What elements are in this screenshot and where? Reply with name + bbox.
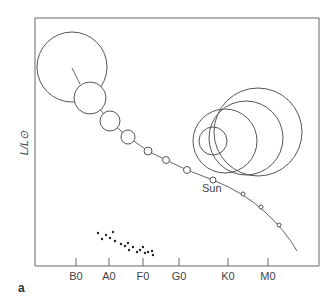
white-dwarf-dot [144,252,146,254]
main-sequence-star [121,130,135,144]
main-sequence-star [241,192,245,196]
white-dwarf-dot [97,232,99,234]
x-tick-label: M0 [260,270,275,282]
main-sequence-star [74,82,106,114]
white-dwarf-dot [151,250,153,252]
main-sequence-star [277,223,281,227]
white-dwarf-dot [147,251,149,253]
white-dwarf-dot [132,246,134,248]
main-sequence-star [163,157,170,164]
white-dwarf-dot [128,249,130,251]
giant-star [209,101,283,175]
hr-diagram-figure: B0A0F0G0K0M0 Sun L/L⊙ a [0,0,335,301]
white-dwarf-dot [101,238,103,240]
white-dwarf-dot [142,246,144,248]
white-dwarf-dot [109,237,111,239]
x-tick-label: B0 [69,270,82,282]
white-dwarf-dot [114,240,116,242]
white-dwarf-dot [136,251,138,253]
main-sequence-star [259,205,263,209]
white-dwarf-dot [105,234,107,236]
y-axis-label: L/L⊙ [18,130,30,155]
main-sequence-stars [37,32,281,227]
sun-label: Sun [202,182,222,194]
white-dwarf-dot [152,254,154,256]
panel-label: a [18,281,25,295]
white-dwarf-dot [124,245,126,247]
giant-star [214,88,302,176]
x-tick-label: K0 [221,270,234,282]
white-dwarf-dot [112,231,114,233]
x-tick-label: F0 [137,270,150,282]
plot-frame [35,18,319,266]
hr-diagram-svg: B0A0F0G0K0M0 Sun L/L⊙ a [0,0,335,301]
main-sequence-star [184,167,191,174]
main-sequence-star [100,111,120,131]
white-dwarf-dot [127,242,129,244]
white-dwarf-dot [120,243,122,245]
giant-star [199,127,227,155]
giant-stars [193,88,302,176]
giant-star [193,109,257,173]
x-axis-ticks: B0A0F0G0K0M0 [69,258,275,282]
white-dwarf-dot [139,249,141,251]
white-dwarf-dots [97,231,154,256]
main-sequence-star [144,147,152,155]
x-tick-label: G0 [172,270,187,282]
x-tick-label: A0 [102,270,115,282]
